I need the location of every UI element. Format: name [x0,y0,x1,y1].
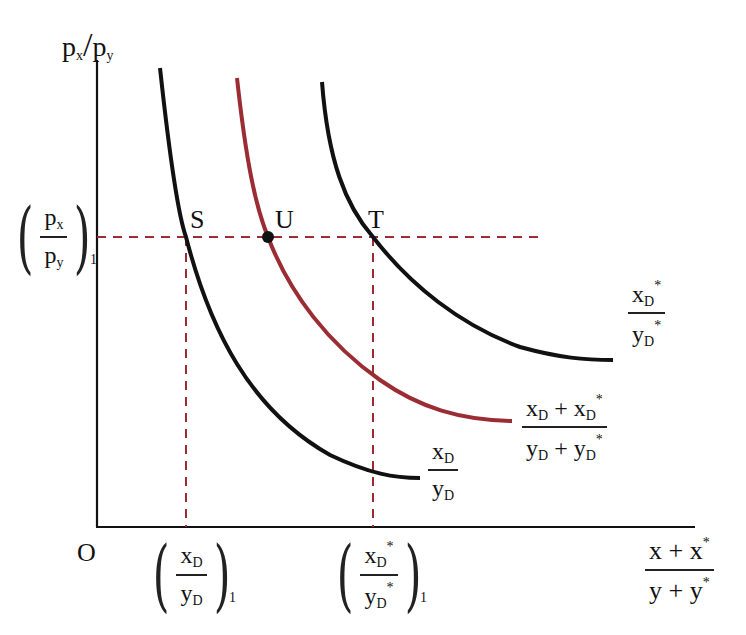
world-curve-den-b-star: * [596,432,603,447]
x-axis-label-num-star: * [703,535,710,550]
home-curve-den-sub: D [444,488,454,503]
home-demand-curve [160,68,420,478]
home-curve-num: x [432,438,444,464]
fraction-bar [40,236,67,238]
equilibrium-point-u-marker [262,231,274,243]
x-tick-foreign-num-star: * [387,539,394,554]
x-axis-label: x + x* y + y* [645,535,714,605]
point-t-label: T [368,207,384,233]
x-tick-home-den-sub: D [192,593,202,608]
x-tick-foreign-num: x [364,542,376,568]
x-tick-foreign-num-sub: D [376,555,386,570]
right-paren: ) [213,536,230,614]
origin-label: O [77,540,96,566]
x-tick-foreign-den: y [364,583,376,609]
x-tick-foreign-den-star: * [387,580,394,595]
right-paren: ) [74,198,91,276]
world-curve-num-plus: + [548,395,574,421]
point-s-label: S [190,207,204,233]
y-axis-label-p: p [62,31,76,62]
y-tick-num: p [44,204,56,230]
world-curve-num-b-star: * [596,392,603,407]
foreign-curve-num-sub: D [644,294,654,309]
y-tick-label: ( px py ) 1 [10,198,97,276]
home-curve-num-sub: D [444,451,454,466]
world-curve-num-a-sub: D [538,408,548,423]
x-axis-label-den: y + y [649,576,703,605]
y-tick-num-sub: x [56,217,63,232]
x-axis-label-den-star: * [703,575,710,590]
world-curve-label: xD + xD* yD + yD* [522,392,607,464]
world-curve-den-b: y [574,435,586,461]
x-tick-home-den: y [180,580,192,606]
fraction-bar [522,426,607,428]
y-axis-label: px/py [62,28,113,63]
y-tick-den: p [44,242,56,268]
y-tick-subscript: 1 [90,252,97,268]
world-curve-num-b-sub: D [586,408,596,423]
fraction-bar [428,469,458,471]
x-tick-foreign-fraction: xD* yD* [360,539,397,611]
x-tick-foreign-den-sub: D [376,596,386,611]
x-tick-home-fraction: xD yD [176,542,206,608]
right-paren: ) [404,536,421,614]
y-axis-label-p2: p [92,31,106,62]
y-axis-label-sub-y: y [106,48,113,63]
x-tick-home-label: ( xD yD ) 1 [146,536,236,614]
fraction-bar [360,574,397,576]
y-axis-label-sub-x: x [76,48,83,63]
left-paren: ( [337,536,354,614]
foreign-curve-den-sub: D [644,334,654,349]
fraction-bar [176,574,206,576]
left-paren: ( [153,536,170,614]
world-curve-den-plus: + [548,435,574,461]
home-curve-label: xD yD [428,438,458,504]
left-paren: ( [17,198,34,276]
foreign-curve-den-star: * [654,318,661,333]
y-tick-den-sub: y [56,255,63,270]
world-curve-den-b-sub: D [586,448,596,463]
y-tick-fraction: px py [40,204,67,270]
point-u-label: U [275,207,294,233]
world-curve-num-a: x [526,395,538,421]
world-demand-curve [237,78,512,421]
foreign-curve-den: y [632,321,644,347]
world-curve-den-a: y [526,435,538,461]
foreign-curve-label: xD* yD* [628,278,665,350]
fraction-bar [645,569,714,571]
world-curve-den-a-sub: D [538,448,548,463]
world-curve-num-b: x [574,395,586,421]
x-tick-home-num: x [180,542,192,568]
x-axis-label-num: x + x [649,536,703,565]
fraction-bar [628,312,665,314]
x-tick-foreign-label: ( xD* yD* ) 1 [330,536,427,614]
home-curve-den: y [432,475,444,501]
foreign-curve-num-star: * [654,278,661,293]
foreign-curve-num: x [632,281,644,307]
foreign-demand-curve [322,82,613,360]
x-tick-home-num-sub: D [192,555,202,570]
